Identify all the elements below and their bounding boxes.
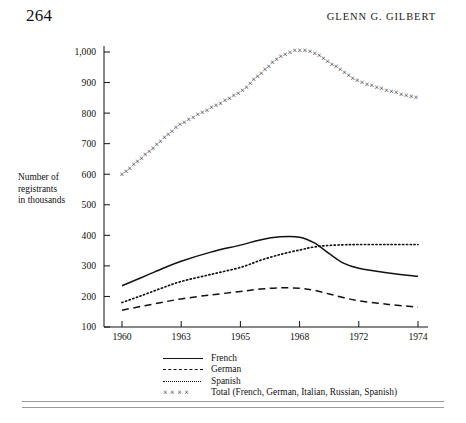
y-axis-title-line-1: Number of [18,172,100,184]
legend-label: French [211,353,237,364]
x-tick-label: 1974 [408,331,427,342]
x-tick-label: 1965 [231,331,250,342]
legend-item: ××××Total (French, German, Italian, Russ… [163,387,397,398]
x-tick-label: 1972 [349,331,368,342]
x-tick-label: 1968 [290,331,309,342]
series-markers-total: ××××××××××××××××××××××××××××××××××××××××… [120,45,419,180]
chart-legend: FrenchGermanSpanish××××Total (French, Ge… [163,353,397,399]
legend-swatch-solid [163,353,203,364]
legend-item: German [163,364,397,375]
legend-item: Spanish [163,376,397,387]
legend-swatch-dotted [163,376,203,387]
y-tick-label: 900 [82,77,97,88]
y-tick-label: 1,000 [74,46,96,57]
series-path-dotted [122,244,418,302]
legend-label: German [211,364,241,375]
legend-item: French [163,353,397,364]
legend-label: Total (French, German, Italian, Russian,… [211,387,397,398]
y-tick-label: 400 [82,230,97,241]
y-tick-label: 100 [82,321,97,332]
legend-swatch-dashed [163,364,203,375]
series-path-dashed [122,288,418,310]
legend-label: Spanish [211,376,241,387]
y-axis-title: Number of registrants in thousands [18,172,100,207]
series-marker-cross: × [414,92,419,102]
series-group: ××××××××××××××××××××××××××××××××××××××××… [120,45,419,311]
y-axis-title-line-2: registrants [18,184,100,196]
y-axis-title-line-3: in thousands [18,195,100,207]
y-tick-label: 700 [82,138,97,149]
y-tick-label: 200 [82,291,97,302]
footer-double-rule [22,401,444,408]
y-tick-label: 300 [82,260,97,271]
x-tick-label: 1960 [112,331,131,342]
legend-swatch-cross: ×××× [163,387,203,398]
y-tick-label: 800 [82,108,97,119]
x-tick-label: 1963 [172,331,191,342]
line-chart-figure: 1002003004005006007008009001,00019601963… [0,0,466,423]
